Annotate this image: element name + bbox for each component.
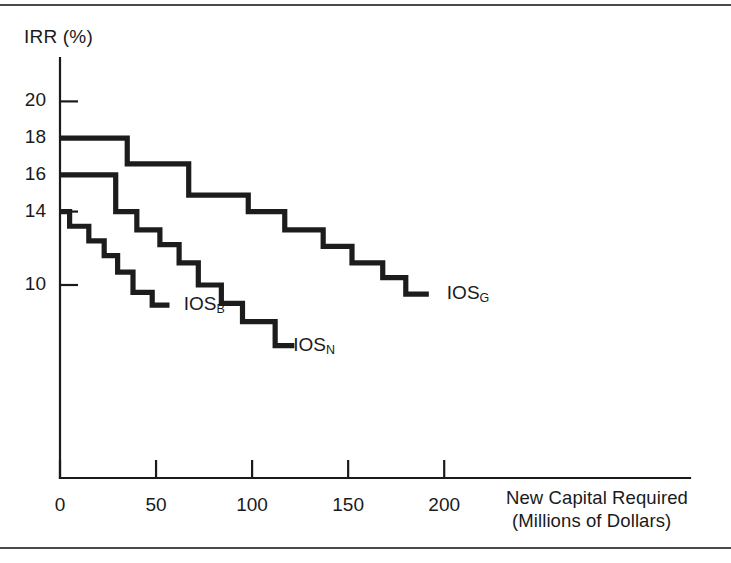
x-axis-subtitle: (Millions of Dollars): [512, 510, 671, 532]
series-label-ios-b: IOSB: [184, 293, 225, 315]
series-label-text: IOS: [293, 334, 326, 355]
y-tick-label: 16: [12, 163, 46, 185]
y-tick-label: 10: [12, 273, 46, 295]
series-label-subscript: G: [480, 291, 490, 305]
series-label-ios-n: IOSN: [293, 334, 335, 356]
series-label-text: IOS: [447, 282, 480, 303]
x-tick-label: 100: [227, 494, 277, 516]
y-tick-marks: [60, 101, 78, 285]
x-tick-label: 50: [131, 494, 181, 516]
y-tick-label: 14: [12, 200, 46, 222]
axes-group: [60, 58, 690, 478]
y-axis-title: IRR (%): [24, 26, 93, 48]
series-label-subscript: B: [216, 302, 224, 316]
chart-figure: IRR (%) 2018161410 050100150200 New Capi…: [0, 0, 731, 563]
series-line-ios-b: [60, 212, 169, 306]
series-lines: [60, 138, 429, 345]
series-line-ios-n: [60, 175, 294, 346]
series-label-text: IOS: [184, 293, 217, 314]
plot-area: [0, 0, 731, 563]
y-tick-label: 20: [12, 89, 46, 111]
x-axis-title: New Capital Required: [506, 487, 688, 509]
x-tick-label: 200: [419, 494, 469, 516]
series-label-ios-g: IOSG: [447, 282, 489, 304]
x-tick-label: 150: [323, 494, 373, 516]
y-tick-label: 18: [12, 126, 46, 148]
x-tick-marks: [60, 460, 444, 478]
series-label-subscript: N: [326, 343, 335, 357]
x-tick-label: 0: [35, 494, 85, 516]
